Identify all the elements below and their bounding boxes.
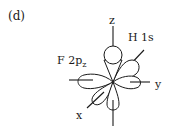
f-2p-text: F 2p bbox=[57, 54, 82, 67]
z-axis-label: z bbox=[109, 14, 115, 27]
h-1s-label: H 1s bbox=[128, 31, 154, 44]
y-axis-label: y bbox=[154, 78, 162, 91]
orbital-diagram: (d) z H 1s F 2pz y x bbox=[0, 0, 172, 131]
panel-label: (d) bbox=[8, 9, 25, 23]
h-1s-orbital bbox=[104, 46, 122, 64]
x-axis-label: x bbox=[76, 109, 83, 122]
f-2pz-label: F 2pz bbox=[57, 54, 86, 69]
orbital-lobes bbox=[78, 46, 141, 110]
f-2p-subscript: z bbox=[82, 60, 86, 69]
